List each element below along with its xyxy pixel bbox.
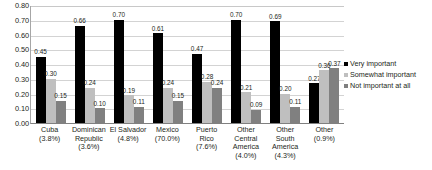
bar-slot: 0.66 (75, 6, 85, 123)
bar-slot: 0.37 (329, 6, 339, 123)
bar[interactable] (173, 101, 183, 123)
bar[interactable] (329, 68, 339, 123)
legend-swatch-icon (344, 73, 348, 77)
bar-slot: 0.47 (192, 6, 202, 123)
bar[interactable] (46, 79, 56, 123)
x-axis-category-percent: (4.0%) (227, 152, 264, 161)
x-axis-category-label: Cuba(3.8%) (30, 126, 69, 170)
bar-slot: 0.09 (251, 6, 261, 123)
bar-slot: 0.70 (114, 6, 124, 123)
bar-slot: 0.45 (36, 6, 46, 123)
bar-slot: 0.24 (212, 6, 222, 123)
bar[interactable] (290, 107, 300, 123)
bar[interactable] (309, 83, 319, 123)
bar-group: 0.610.240.15 (148, 6, 187, 123)
bar[interactable] (231, 20, 241, 123)
bar[interactable] (114, 20, 124, 123)
bar-group: 0.700.210.09 (227, 6, 266, 123)
x-axis-category-name: Cuba (41, 125, 58, 134)
bar-value-label: 0.15 (54, 93, 66, 99)
bar-slot: 0.30 (46, 6, 56, 123)
bar[interactable] (134, 107, 144, 123)
bar[interactable] (95, 108, 105, 123)
x-axis-category-name: Mexico (156, 125, 179, 134)
x-axis-category-percent: (4.3%) (267, 152, 304, 161)
bar[interactable] (251, 110, 261, 123)
bar-slot: 0.69 (270, 6, 280, 123)
bar-value-label: 0.10 (93, 101, 105, 107)
bar-value-label: 0.15 (172, 93, 184, 99)
bar-slot: 0.15 (56, 6, 66, 123)
y-axis-tick-label: 0.30 (15, 76, 29, 83)
legend-swatch-icon (344, 84, 348, 88)
bar[interactable] (212, 88, 222, 123)
x-axis-category-label: Dominican Republic(3.6%) (69, 126, 108, 170)
x-axis-category-percent: (3.6%) (70, 143, 107, 152)
x-axis-category-name: Other (315, 125, 333, 134)
bar[interactable] (153, 33, 163, 123)
y-axis-tick-label: 0.50 (15, 47, 29, 54)
x-axis-category-label: Puerto Rico(7.6%) (187, 126, 226, 170)
x-axis-category-percent: (70.0%) (149, 135, 186, 144)
bar[interactable] (36, 57, 46, 123)
bar-group: 0.700.190.11 (109, 6, 148, 123)
bar-slot: 0.11 (290, 6, 300, 123)
bar-group: 0.470.280.24 (188, 6, 227, 123)
bar-group: 0.450.300.15 (31, 6, 70, 123)
chart-legend: Very importantSomewhat importantNot impo… (344, 58, 430, 91)
bar[interactable] (270, 21, 280, 123)
legend-label: Somewhat important (350, 71, 416, 79)
y-axis-tick-label: 0.40 (15, 61, 29, 68)
x-axis-category-label: Other(0.9%) (305, 126, 344, 170)
y-axis-tick-label: 0.10 (15, 106, 29, 113)
bar-slot: 0.24 (163, 6, 173, 123)
x-axis-category-label: Other South America(4.3%) (266, 126, 305, 170)
bar-group: 0.660.240.10 (70, 6, 109, 123)
bar-slot: 0.15 (173, 6, 183, 123)
x-axis-category-name: El Salvador (110, 125, 147, 134)
x-axis-category-label: El Salvador(4.8%) (109, 126, 148, 170)
bar-group: 0.270.360.37 (305, 6, 344, 123)
bar-value-label: 0.24 (211, 80, 223, 86)
legend-item[interactable]: Very important (344, 58, 430, 69)
bars-layer: 0.450.300.150.660.240.100.700.190.110.61… (31, 6, 344, 123)
legend-item[interactable]: Not important at all (344, 80, 430, 91)
bar[interactable] (202, 82, 212, 123)
bar-slot: 0.61 (153, 6, 163, 123)
x-axis-category-percent: (4.8%) (110, 135, 147, 144)
x-axis-category-name: Other Central America (233, 125, 259, 151)
bar[interactable] (192, 54, 202, 123)
bar-value-label: 0.37 (328, 61, 340, 67)
x-axis-category-percent: (0.9%) (306, 135, 343, 144)
x-axis-category-label: Other Central America(4.0%) (226, 126, 265, 170)
x-axis-category-percent: (3.8%) (31, 135, 68, 144)
bar-value-label: 0.11 (289, 99, 301, 105)
legend-swatch-icon (344, 62, 348, 66)
y-axis-tick-label: 0.20 (15, 91, 29, 98)
y-axis-tick-label: 0.60 (15, 32, 29, 39)
bar[interactable] (56, 101, 66, 123)
legend-item[interactable]: Somewhat important (344, 69, 430, 80)
legend-label: Very important (350, 60, 396, 68)
bar-value-label: 0.11 (133, 99, 145, 105)
x-axis-category-name: Puerto Rico (196, 125, 217, 143)
bar-slot: 0.70 (231, 6, 241, 123)
bar-group: 0.690.200.11 (266, 6, 305, 123)
bar-slot: 0.11 (134, 6, 144, 123)
x-axis-category-name: Other South America (272, 125, 298, 151)
plot-area: 0.450.300.150.660.240.100.700.190.110.61… (30, 6, 344, 124)
y-axis-tick-label: 0.70 (15, 17, 29, 24)
y-axis-tick-label: 0.80 (15, 2, 29, 9)
bar-value-label: 0.09 (250, 102, 262, 108)
y-axis: 0.800.700.600.500.400.300.200.100.00 (0, 6, 30, 124)
y-axis-tick-label: 0.00 (15, 120, 29, 127)
bar[interactable] (319, 70, 329, 123)
x-axis-category-label: Mexico(70.0%) (148, 126, 187, 170)
bar-slot: 0.28 (202, 6, 212, 123)
bar-slot: 0.10 (95, 6, 105, 123)
x-axis-category-name: Dominican Republic (72, 125, 106, 143)
grouped-bar-chart: 0.800.700.600.500.400.300.200.100.00 0.4… (0, 0, 432, 170)
x-axis: Cuba(3.8%)Dominican Republic(3.6%)El Sal… (30, 126, 344, 170)
x-axis-category-percent: (7.6%) (188, 143, 225, 152)
bar[interactable] (75, 26, 85, 123)
